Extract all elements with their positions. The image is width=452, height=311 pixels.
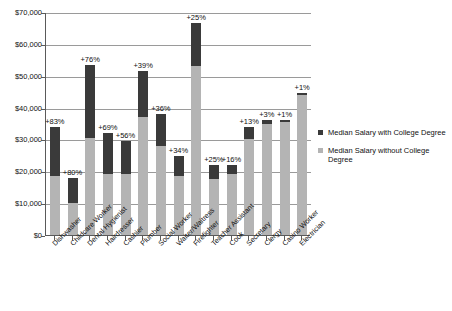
bar-segment-with-degree <box>121 141 131 174</box>
legend-swatch-icon <box>318 148 323 153</box>
y-axis-tick-label: $60,000 <box>0 41 42 49</box>
bar-segment-without-degree <box>244 139 254 235</box>
legend-swatch-icon <box>318 130 323 135</box>
bar-segment-with-degree <box>68 178 78 203</box>
legend-item[interactable]: Median Salary without College Degree <box>318 146 448 164</box>
bar-column <box>121 12 131 235</box>
bar-column <box>209 12 219 235</box>
bar-percent-label: +1% <box>282 84 322 92</box>
bar-segment-with-degree <box>174 156 184 176</box>
y-axis-tick-label: $0 <box>0 232 42 240</box>
bar-segment-with-degree <box>244 127 254 140</box>
y-axis-tick-mark <box>41 236 45 237</box>
bar-segment-without-degree <box>191 66 201 235</box>
bar-column <box>156 12 166 235</box>
y-axis-tick-label: $10,000 <box>0 200 42 208</box>
bar-column <box>191 12 201 235</box>
bar-column <box>262 12 272 235</box>
y-axis-tick-label: $20,000 <box>0 168 42 176</box>
bar-segment-with-degree <box>262 120 272 123</box>
salary-comparison-chart: $70,000$60,000$50,000$40,000$30,000$20,0… <box>0 0 452 311</box>
legend-item[interactable]: Median Salary with College Degree <box>318 128 448 137</box>
bar-segment-without-degree <box>138 117 148 235</box>
bar-segment-with-degree <box>156 114 166 146</box>
bar-segment-with-degree <box>209 165 219 179</box>
bar-column <box>280 12 290 235</box>
legend-label: Median Salary without College Degree <box>328 146 448 164</box>
plot-area: +83%+80%+76%+69%+56%+39%+36%+34%+25%+25%… <box>45 13 310 236</box>
chart-legend: Median Salary with College DegreeMedian … <box>318 128 448 173</box>
legend-label: Median Salary with College Degree <box>328 128 448 137</box>
bar-segment-with-degree <box>280 120 290 122</box>
bar-segment-with-degree <box>227 165 237 175</box>
bar-segment-without-degree <box>50 176 60 235</box>
y-axis-tick-label: $40,000 <box>0 105 42 113</box>
bar-segment-without-degree <box>280 122 290 235</box>
bar-column <box>68 12 78 235</box>
bar-segment-with-degree <box>191 23 201 66</box>
y-axis-tick-label: $30,000 <box>0 136 42 144</box>
bar-segment-without-degree <box>262 124 272 236</box>
y-axis-tick-label: $50,000 <box>0 73 42 81</box>
y-axis-tick-label: $70,000 <box>0 9 42 17</box>
bar-column <box>297 12 307 235</box>
bar-column <box>138 12 148 235</box>
bar-segment-with-degree <box>297 93 307 95</box>
bar-column <box>174 12 184 235</box>
